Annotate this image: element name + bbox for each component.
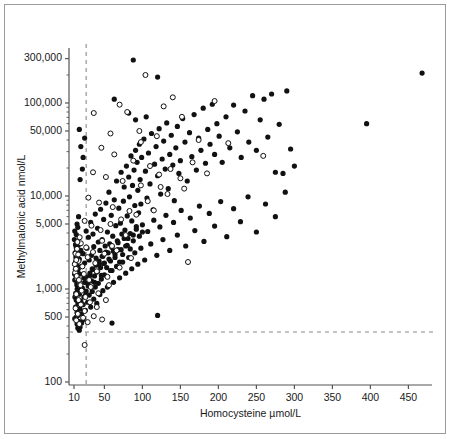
data-point-open (125, 110, 130, 115)
data-point-open (131, 158, 136, 163)
data-point-filled (163, 166, 168, 171)
data-point-filled (246, 139, 251, 144)
data-point-filled (173, 145, 178, 150)
y-axis-title: Methylmalonic acid nmol/L (15, 154, 27, 278)
y-tick-label-500: 500 (44, 310, 62, 322)
data-point-open (182, 186, 187, 191)
data-point-filled (261, 97, 266, 102)
data-point-open (82, 218, 87, 223)
data-point-open (108, 131, 113, 136)
data-point-open (108, 221, 113, 226)
data-point-open (106, 283, 111, 288)
data-point-filled (138, 246, 143, 251)
data-point-open (100, 238, 105, 243)
data-point-open (120, 178, 125, 183)
data-point-filled (194, 167, 199, 172)
data-point-open (91, 170, 96, 175)
y-tick-label-10000: 10,000 (30, 189, 62, 201)
data-point-filled (158, 191, 163, 196)
data-point-open (137, 128, 142, 133)
data-point-filled (218, 199, 223, 204)
data-point-open (88, 285, 93, 290)
data-point-filled (217, 134, 222, 139)
data-point-open (143, 73, 148, 78)
data-point-open (178, 176, 183, 181)
data-point-open (75, 240, 80, 245)
data-point-open (165, 192, 170, 197)
data-point-open (87, 300, 92, 305)
data-point-open (91, 249, 96, 254)
data-point-filled (142, 257, 147, 262)
data-point-filled (188, 215, 193, 220)
data-point-filled (179, 208, 184, 213)
data-point-filled (182, 139, 187, 144)
data-point-open (86, 195, 91, 200)
data-point-open (93, 261, 98, 266)
data-point-open (151, 208, 156, 213)
data-point-filled (106, 190, 111, 195)
data-point-filled (258, 117, 263, 122)
data-point-filled (176, 171, 181, 176)
data-point-open (91, 314, 96, 319)
data-point-filled (214, 121, 219, 126)
data-point-filled (239, 155, 244, 160)
x-tick-label-50: 50 (99, 391, 111, 403)
data-point-filled (147, 181, 152, 186)
data-point-open (99, 145, 104, 150)
data-point-filled (187, 130, 192, 135)
data-point-filled (138, 201, 143, 206)
data-point-open (212, 99, 217, 104)
scatter-plot: 1005001,0005,00010,00050,000100,000300,0… (0, 0, 452, 439)
data-point-filled (201, 106, 206, 111)
data-point-filled (245, 194, 250, 199)
y-tick-label-1000: 1,000 (36, 282, 62, 294)
data-point-open (145, 199, 150, 204)
x-tick-label-350: 350 (324, 391, 342, 403)
data-point-filled (160, 237, 165, 242)
data-point-filled (90, 231, 95, 236)
data-point-filled (277, 122, 282, 127)
data-point-filled (137, 234, 142, 239)
y-tick-label-300000: 300,000 (24, 51, 62, 63)
data-point-filled (273, 214, 278, 219)
data-point-filled (189, 154, 194, 159)
data-point-open (117, 102, 122, 107)
data-point-filled (135, 262, 140, 267)
data-point-filled (231, 206, 236, 211)
data-point-open (112, 152, 117, 157)
data-point-open (261, 153, 266, 158)
data-point-filled (93, 211, 98, 216)
x-tick-label-200: 200 (210, 391, 228, 403)
data-point-open (103, 298, 108, 303)
data-point-filled (106, 256, 111, 261)
data-point-filled (203, 161, 208, 166)
data-point-filled (220, 160, 225, 165)
data-point-filled (161, 138, 166, 143)
x-tick-label-10: 10 (68, 391, 80, 403)
data-point-open (170, 95, 175, 100)
data-point-filled (175, 124, 180, 129)
data-point-filled (151, 218, 156, 223)
y-tick-label-5000: 5,000 (36, 217, 62, 229)
data-point-open (80, 264, 85, 269)
series-filled-markers (72, 57, 425, 332)
data-point-open (74, 292, 79, 297)
data-point-filled (120, 259, 125, 264)
data-point-filled (166, 186, 171, 191)
data-point-open (110, 243, 115, 248)
data-point-filled (113, 223, 118, 228)
data-point-open (168, 167, 173, 172)
data-point-filled (77, 177, 82, 182)
data-point-filled (78, 144, 83, 149)
data-point-filled (129, 218, 134, 223)
data-point-filled (155, 313, 160, 318)
data-point-filled (175, 232, 180, 237)
data-point-open (78, 283, 83, 288)
data-point-filled (117, 275, 122, 280)
data-point-filled (169, 133, 174, 138)
data-point-filled (198, 148, 203, 153)
data-point-open (97, 200, 102, 205)
data-point-open (117, 265, 122, 270)
data-point-open (196, 138, 201, 143)
data-point-open (102, 251, 107, 256)
